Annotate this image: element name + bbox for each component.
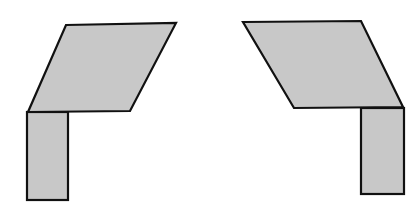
right-parallelogram	[243, 21, 403, 108]
diagram-canvas	[0, 0, 418, 212]
right-rectangle	[361, 108, 404, 194]
left-parallelogram	[28, 23, 176, 112]
left-rectangle	[27, 112, 68, 200]
right-figure	[243, 21, 404, 194]
left-figure	[27, 23, 176, 200]
